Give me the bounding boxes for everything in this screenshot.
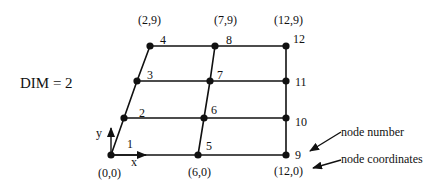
- node-number-arrow: [310, 132, 341, 151]
- coord-label-node9: (12,0): [274, 165, 303, 177]
- mesh-lines: [111, 46, 286, 155]
- node-coordinates-annotation: node coordinates: [341, 153, 423, 165]
- x-axis-label: x: [131, 156, 137, 168]
- node-label-8: 8: [226, 34, 232, 46]
- coord-label-node5: (6,0): [188, 166, 211, 178]
- node-label-4: 4: [160, 34, 166, 46]
- node-label-7: 7: [217, 69, 223, 81]
- node-label-11: 11: [295, 76, 307, 88]
- node-label-6: 6: [211, 104, 217, 116]
- node-label-12: 12: [293, 33, 305, 45]
- coord-label-node8: (7,9): [214, 14, 237, 26]
- y-axis-label: y: [96, 127, 102, 139]
- node-coordinates-arrow: [313, 160, 341, 168]
- node-label-10: 10: [295, 116, 307, 128]
- node-label-9: 9: [295, 149, 301, 161]
- node-label-1: 1: [127, 138, 133, 150]
- node-number-annotation: node number: [341, 126, 404, 138]
- dimension-label: DIM = 2: [20, 76, 73, 91]
- annotation-arrows: [310, 132, 341, 168]
- node-dots: [107, 42, 289, 158]
- node-label-2: 2: [139, 107, 145, 119]
- coord-label-node4: (2,9): [138, 14, 161, 26]
- node-label-3: 3: [147, 69, 153, 81]
- node-label-5: 5: [206, 140, 212, 152]
- mesh-diagram: DIM = 2 1 2 3 4 5 6 7 8 9 10 11 12 (0,0)…: [0, 0, 443, 186]
- coord-label-node1: (0,0): [98, 167, 121, 179]
- coord-label-node12: (12,9): [274, 14, 303, 26]
